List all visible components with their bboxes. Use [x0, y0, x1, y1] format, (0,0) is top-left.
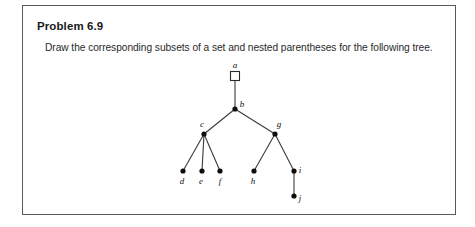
- tree-edge-b-c: [204, 109, 235, 134]
- tree-labels: abcgdefhij: [180, 60, 302, 203]
- tree-node-label-b: b: [240, 99, 245, 109]
- tree-node-d: [180, 168, 185, 173]
- tree-node-g: [272, 131, 277, 136]
- tree-edge-g-i: [275, 134, 294, 171]
- tree-node-label-a: a: [233, 60, 238, 70]
- page-title: Problem 6.9: [37, 20, 103, 32]
- problem-statement: Draw the corresponding subsets of a set …: [45, 42, 433, 53]
- tree-edge-c-f: [204, 134, 220, 171]
- tree-node-label-g: g: [277, 119, 282, 129]
- tree-edge-c-e: [202, 134, 204, 171]
- tree-node-label-e: e: [199, 176, 203, 186]
- tree-edge-g-h: [254, 134, 275, 171]
- tree-node-label-c: c: [200, 119, 204, 129]
- problem-box: Problem 6.9 Draw the corresponding subse…: [22, 5, 456, 215]
- tree-node-i: [291, 168, 296, 173]
- tree-edge-b-g: [235, 109, 275, 134]
- tree-node-label-f: f: [219, 176, 223, 186]
- tree-node-j: [291, 193, 296, 198]
- tree-node-label-d: d: [180, 176, 185, 186]
- tree-node-label-h: h: [251, 176, 256, 186]
- tree-node-c: [201, 131, 206, 136]
- tree-node-label-i: i: [299, 165, 302, 175]
- tree-nodes: [180, 72, 296, 199]
- tree-diagram: abcgdefhij: [23, 6, 457, 216]
- page-canvas: Problem 6.9 Draw the corresponding subse…: [0, 0, 475, 227]
- tree-edge-c-d: [183, 134, 204, 171]
- tree-node-b: [232, 106, 237, 111]
- tree-node-a: [231, 72, 240, 81]
- tree-node-h: [251, 168, 256, 173]
- tree-node-e: [199, 168, 204, 173]
- tree-edges: [183, 80, 294, 196]
- tree-node-f: [217, 168, 222, 173]
- tree-node-label-j: j: [298, 193, 302, 203]
